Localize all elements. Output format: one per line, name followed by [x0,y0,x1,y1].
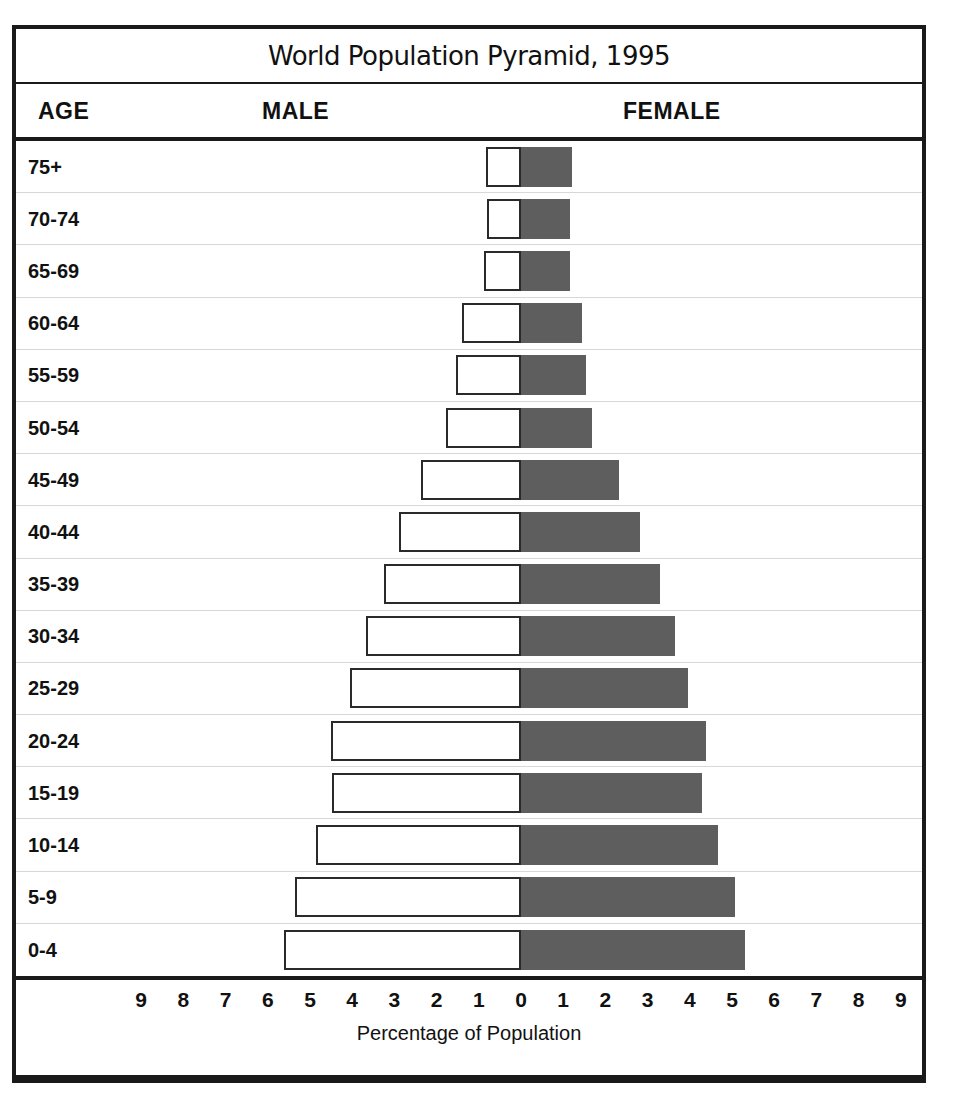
age-group-label: 75+ [28,155,62,178]
pyramid-row: 20-24 [16,715,922,767]
age-group-label: 0-4 [28,938,57,961]
male-bar [446,408,521,448]
male-bar [487,199,521,239]
pyramid-row: 15-19 [16,767,922,819]
male-bar [350,668,521,708]
pyramid-row: 0-4 [16,924,922,976]
age-group-label: 15-19 [28,781,79,804]
x-axis-tick: 9 [895,988,907,1012]
age-group-label: 40-44 [28,520,79,543]
pyramid-row: 30-34 [16,611,922,663]
pyramid-row: 35-39 [16,559,922,611]
x-axis-title: Percentage of Population [16,1022,922,1045]
female-bar [521,251,570,291]
x-axis-tick: 1 [557,988,569,1012]
x-axis-tick: 7 [220,988,232,1012]
x-axis-area: 9876543210123456789 Percentage of Popula… [16,976,922,1079]
female-bar [521,199,570,239]
age-group-label: 5-9 [28,886,57,909]
female-bar [521,825,718,865]
female-bar [521,512,640,552]
female-bar [521,460,619,500]
age-group-label: 65-69 [28,259,79,282]
x-axis-tick: 8 [178,988,190,1012]
column-header-band: AGE MALE FEMALE [16,84,922,141]
female-bar [521,877,735,917]
male-bar [366,616,521,656]
chart-title-band: World Population Pyramid, 1995 [16,29,922,84]
female-bar [521,721,706,761]
x-axis-tick: 6 [262,988,274,1012]
male-bar [284,930,521,970]
female-bar [521,930,745,970]
x-axis-tick: 4 [684,988,696,1012]
column-header-male: MALE [262,97,329,124]
pyramid-row: 60-64 [16,298,922,350]
axis-bottom-rule [16,1075,922,1079]
pyramid-row: 50-54 [16,402,922,454]
column-header-female: FEMALE [623,97,721,124]
male-bar [384,564,521,604]
chart-frame: World Population Pyramid, 1995 AGE MALE … [12,25,926,1083]
age-group-label: 10-14 [28,834,79,857]
male-bar [331,721,521,761]
pyramid-row: 10-14 [16,819,922,871]
x-axis-tick: 2 [431,988,443,1012]
male-bar [456,355,521,395]
age-group-label: 45-49 [28,468,79,491]
male-bar [295,877,521,917]
pyramid-plot-area: 75+70-7465-6960-6455-5950-5445-4940-4435… [16,141,922,976]
x-axis-tick: 6 [768,988,780,1012]
female-bar [521,564,660,604]
male-bar [421,460,521,500]
age-group-label: 60-64 [28,312,79,335]
x-axis-tick: 8 [853,988,865,1012]
female-bar [521,147,572,187]
male-bar [316,825,521,865]
x-axis-tick: 7 [811,988,823,1012]
female-bar [521,668,688,708]
pyramid-row: 75+ [16,141,922,193]
column-header-age: AGE [38,97,89,124]
x-axis-tick: 9 [135,988,147,1012]
x-axis-tick: 4 [346,988,358,1012]
male-bar [484,251,521,291]
male-bar [399,512,521,552]
age-group-label: 70-74 [28,207,79,230]
age-group-label: 25-29 [28,677,79,700]
age-group-label: 55-59 [28,364,79,387]
male-bar [332,773,521,813]
pyramid-row: 45-49 [16,454,922,506]
pyramid-row: 70-74 [16,193,922,245]
male-bar [462,303,521,343]
x-axis-tick: 2 [600,988,612,1012]
x-axis-tick: 5 [304,988,316,1012]
female-bar [521,773,702,813]
x-axis-tick: 3 [642,988,654,1012]
age-group-label: 50-54 [28,416,79,439]
age-group-label: 30-34 [28,625,79,648]
pyramid-row: 25-29 [16,663,922,715]
male-bar [486,147,521,187]
pyramid-row: 65-69 [16,245,922,297]
age-group-label: 20-24 [28,729,79,752]
female-bar [521,616,675,656]
chart-page: World Population Pyramid, 1995 AGE MALE … [0,0,955,1101]
female-bar [521,408,592,448]
x-axis-tick: 0 [515,988,527,1012]
chart-title: World Population Pyramid, 1995 [268,41,670,71]
x-axis-tick: 1 [473,988,485,1012]
female-bar [521,355,586,395]
x-axis-tick: 5 [726,988,738,1012]
pyramid-row: 5-9 [16,872,922,924]
age-group-label: 35-39 [28,573,79,596]
pyramid-row: 40-44 [16,506,922,558]
female-bar [521,303,582,343]
x-axis-tick: 3 [389,988,401,1012]
pyramid-row: 55-59 [16,350,922,402]
